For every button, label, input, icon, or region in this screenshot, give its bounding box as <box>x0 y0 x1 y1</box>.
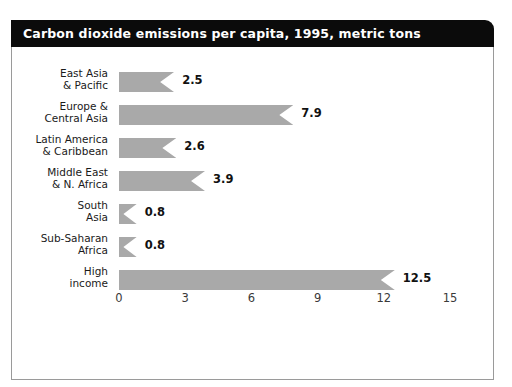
bar-value-label: 0.8 <box>145 205 165 219</box>
bar-category-label-line: Central Asia <box>0 112 108 124</box>
bar-category-label-line: & N. Africa <box>0 178 108 190</box>
bar-category-label-line: High <box>0 265 108 277</box>
bar-row: East Asia& Pacific2.5 <box>0 72 512 92</box>
x-axis-tick-label: 0 <box>99 291 139 305</box>
x-axis-tick-label: 9 <box>298 291 338 305</box>
bar-category-label-line: South <box>0 199 108 211</box>
bar-category-label-line: Europe & <box>0 100 108 112</box>
chart-figure: Carbon dioxide emissions per capita, 199… <box>0 0 512 387</box>
bar-category-label-line: & Caribbean <box>0 145 108 157</box>
bar-value-label: 2.5 <box>182 73 202 87</box>
x-axis-tick-label: 6 <box>231 291 271 305</box>
bar-row: Sub-SaharanAfrica0.8 <box>0 237 512 257</box>
bar-value-label: 12.5 <box>403 271 431 285</box>
bar <box>119 105 293 125</box>
bar-category-label-line: income <box>0 277 108 289</box>
bar <box>119 138 176 158</box>
bar <box>119 237 137 257</box>
bar-row: Highincome12.5 <box>0 270 512 290</box>
bar-row: SouthAsia0.8 <box>0 204 512 224</box>
bar <box>119 270 395 290</box>
bar-category-label: Latin America& Caribbean <box>0 133 108 158</box>
x-axis-tick-label: 12 <box>364 291 404 305</box>
bar-category-label-line: & Pacific <box>0 79 108 91</box>
chart-title-bar: Carbon dioxide emissions per capita, 199… <box>11 20 494 47</box>
bar-value-label: 3.9 <box>213 172 233 186</box>
bar-row: Europe &Central Asia7.9 <box>0 105 512 125</box>
bar-category-label-line: Africa <box>0 244 108 256</box>
bar-category-label-line: Latin America <box>0 133 108 145</box>
bar-category-label: Europe &Central Asia <box>0 100 108 125</box>
bar-row: Middle East& N. Africa3.9 <box>0 171 512 191</box>
bar-category-label-line: Asia <box>0 211 108 223</box>
bar-category-label: Highincome <box>0 265 108 290</box>
bar-value-label: 0.8 <box>145 238 165 252</box>
bar-category-label-line: Sub-Saharan <box>0 232 108 244</box>
x-axis-tick-label: 3 <box>165 291 205 305</box>
bar-category-label-line: Middle East <box>0 166 108 178</box>
bar-row: Latin America& Caribbean2.6 <box>0 138 512 158</box>
x-axis-tick-label: 15 <box>430 291 470 305</box>
bar-category-label: Sub-SaharanAfrica <box>0 232 108 257</box>
bar-category-label: SouthAsia <box>0 199 108 224</box>
bar-category-label: East Asia& Pacific <box>0 67 108 92</box>
bar-value-label: 2.6 <box>184 139 204 153</box>
chart-plot-area: East Asia& Pacific2.5Europe &Central Asi… <box>0 47 512 380</box>
bar-value-label: 7.9 <box>301 106 321 120</box>
bar <box>119 72 174 92</box>
bar-category-label-line: East Asia <box>0 67 108 79</box>
bar-category-label: Middle East& N. Africa <box>0 166 108 191</box>
bar <box>119 171 205 191</box>
bar <box>119 204 137 224</box>
page-title: Carbon dioxide emissions per capita, 199… <box>11 26 421 41</box>
